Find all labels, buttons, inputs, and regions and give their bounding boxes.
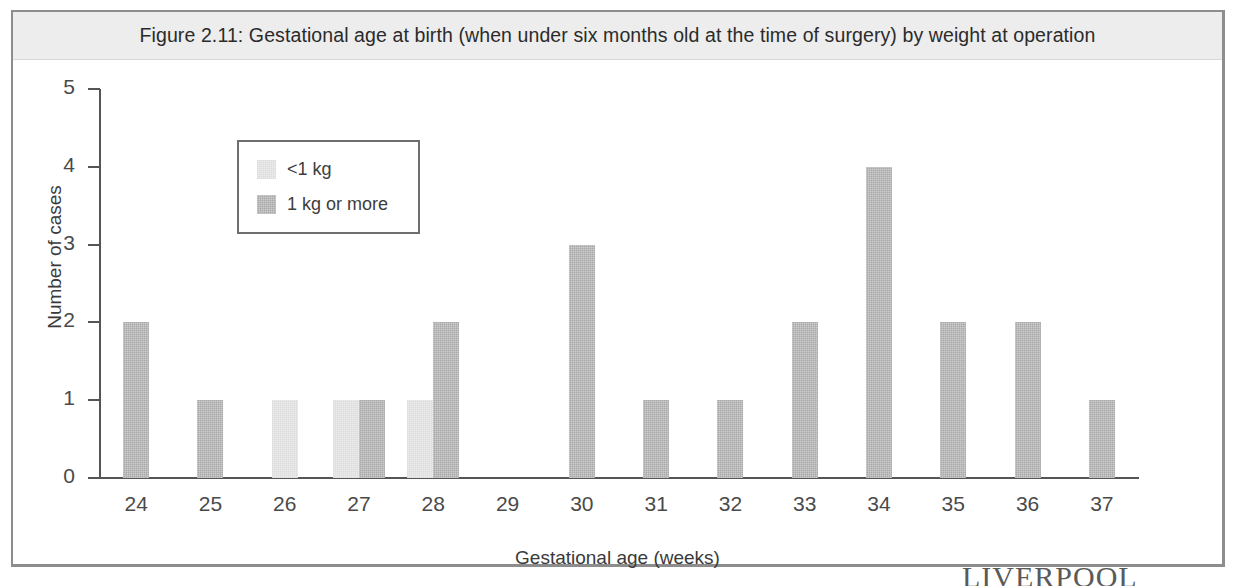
bar-light: [272, 400, 298, 478]
x-axis-tick-label: 26: [248, 492, 322, 516]
watermark-text: LIVERPOOL: [962, 560, 1138, 586]
figure-frame: Figure 2.11: Gestational age at birth (w…: [11, 10, 1225, 567]
legend-label-dark: 1 kg or more: [287, 194, 388, 215]
x-axis-tick-label: 37: [1065, 492, 1139, 516]
legend-swatch-icon-light: [257, 160, 276, 179]
x-axis-tick-label: 35: [916, 492, 990, 516]
x-axis-tick-label: 32: [693, 492, 767, 516]
y-axis-tick-label: 1: [35, 386, 75, 410]
x-axis-tick-label: 33: [768, 492, 842, 516]
bar-dark: [359, 400, 385, 478]
y-axis-tick-label: 5: [35, 75, 75, 99]
x-axis-tick-label: 29: [471, 492, 545, 516]
bar-dark: [123, 322, 149, 478]
x-axis-tick-label: 34: [842, 492, 916, 516]
x-axis-tick-label: 28: [396, 492, 470, 516]
bar-dark: [433, 322, 459, 478]
legend-label-light: <1 kg: [287, 159, 332, 180]
x-axis-tick-label: 24: [99, 492, 173, 516]
bar-dark: [866, 167, 892, 478]
bar-dark: [643, 400, 669, 478]
bar-dark: [1015, 322, 1041, 478]
legend-item-dark: 1 kg or more: [257, 194, 388, 215]
chart-legend: <1 kg 1 kg or more: [237, 140, 420, 234]
bar-light: [333, 400, 359, 478]
bar-dark: [717, 400, 743, 478]
bar-light: [407, 400, 433, 478]
x-axis-tick-label: 25: [173, 492, 247, 516]
x-axis-tick-label: 30: [545, 492, 619, 516]
bar-dark: [940, 322, 966, 478]
x-axis-tick-label: 31: [619, 492, 693, 516]
y-axis-tick-label: 0: [35, 464, 75, 488]
bar-dark: [197, 400, 223, 478]
chart-plot-region: Number of cases 012345 24252627282930313…: [13, 60, 1222, 564]
y-axis-tick-label: 2: [35, 308, 75, 332]
y-axis-tick-label: 4: [35, 153, 75, 177]
legend-swatch-icon-dark: [257, 195, 276, 214]
figure-title-band: Figure 2.11: Gestational age at birth (w…: [13, 12, 1222, 60]
page-title: Figure 2.11: Gestational age at birth (w…: [140, 24, 1096, 47]
x-axis-tick-label: 27: [322, 492, 396, 516]
bar-dark: [792, 322, 818, 478]
legend-item-light: <1 kg: [257, 159, 332, 180]
bar-dark: [1089, 400, 1115, 478]
bar-dark: [569, 245, 595, 478]
x-axis-tick-label: 36: [991, 492, 1065, 516]
y-axis-tick-label: 3: [35, 231, 75, 255]
